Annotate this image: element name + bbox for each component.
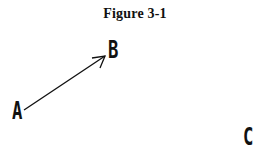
arrow-a-to-b <box>0 0 262 158</box>
arrow-line <box>24 56 105 110</box>
point-label-b: B <box>108 38 118 62</box>
point-label-a: A <box>12 99 22 123</box>
point-label-c: C <box>243 125 253 149</box>
arrowhead-icon <box>92 56 105 68</box>
figure-title: Figure 3-1 <box>0 6 262 22</box>
